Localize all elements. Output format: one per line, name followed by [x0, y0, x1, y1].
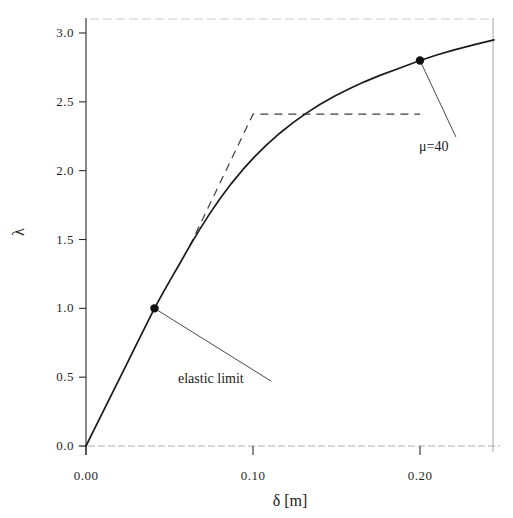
x-tick-marks	[86, 446, 420, 455]
xtick-label-1: 0.10	[241, 468, 266, 484]
ytick-label-4: 2.0	[36, 163, 74, 179]
capacity-curve-line	[86, 40, 494, 446]
y-tick-marks	[79, 33, 86, 446]
ytick-label-6: 3.0	[36, 25, 74, 41]
mu-annotation-label: μ=40	[419, 139, 448, 155]
xtick-label-2: 0.20	[408, 468, 433, 484]
data-point-markers	[150, 56, 424, 312]
ytick-label-1: 0.5	[36, 369, 74, 385]
ytick-label-0: 0.0	[36, 438, 74, 454]
marker-elastic-limit	[150, 304, 158, 312]
xtick-label-0: 0.00	[74, 468, 99, 484]
ytick-label-3: 1.5	[36, 232, 74, 248]
elastic-limit-annotation-label: elastic limit	[178, 371, 244, 387]
ytick-label-2: 1.0	[36, 300, 74, 316]
marker-ductility-point	[416, 56, 424, 64]
leader-line-mu-40	[420, 61, 456, 137]
bilinear-idealization-line	[190, 114, 420, 246]
y-axis-title: λ	[10, 219, 28, 245]
chart-figure: 0.0 0.5 1.0 1.5 2.0 2.5 3.0 0.00 0.10 0.…	[0, 0, 513, 518]
axis-lines	[78, 18, 500, 455]
ytick-label-5: 2.5	[36, 94, 74, 110]
x-axis-title: δ [m]	[273, 492, 308, 510]
plot-canvas	[0, 0, 513, 518]
annotation-leader-lines	[154, 61, 455, 382]
